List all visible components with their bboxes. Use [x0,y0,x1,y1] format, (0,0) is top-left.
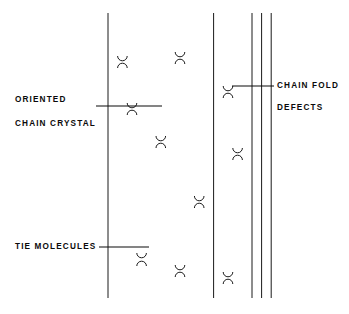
polymer-morphology-diagram: ORIENTEDCHAIN CRYSTALCHAIN FOLDDEFECTSTI… [0,0,349,314]
diagram-background [0,0,349,314]
label-oriented-chain-crystal-line-1: ORIENTED [15,95,67,104]
label-chain-fold-defects-line-2: DEFECTS [277,103,323,112]
label-tie-molecules-line-1: TIE MOLECULES [15,242,96,251]
label-oriented-chain-crystal-line-2: CHAIN CRYSTAL [15,119,96,128]
figure-root: ORIENTEDCHAIN CRYSTALCHAIN FOLDDEFECTSTI… [0,0,349,314]
label-chain-fold-defects-line-1: CHAIN FOLD [277,81,339,90]
